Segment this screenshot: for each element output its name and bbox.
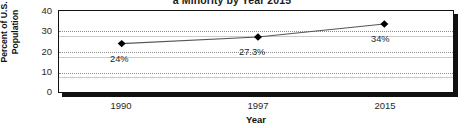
y-axis-tick-0: 0 [30,87,52,97]
y-axis-tick-labels: 40 30 20 10 0 [28,0,52,128]
data-point-marker-2015 [380,20,388,27]
series-line [122,24,385,44]
data-label-1990: 24% [110,54,129,64]
y-axis-tick-30: 30 [30,26,52,36]
y-axis-tick-10: 10 [30,67,52,77]
y-axis-title: Percent of U.S. Population [0,0,25,72]
y-axis-title-line-1: Percent of U.S. [0,0,10,72]
data-label-1997: 27.3% [239,47,265,57]
line-chart-figure: a Minority by Year 2015 Percent of U.S. … [0,0,464,128]
y-axis-title-line-2: Population [10,0,21,72]
data-point-marker-1997 [254,33,262,40]
chart-title: a Minority by Year 2015 [0,0,464,6]
y-axis-tick-40: 40 [30,6,52,16]
data-point-marker-1990 [118,40,126,47]
x-axis-title: Year [58,114,454,125]
x-axis-tick-1997: 1997 [247,100,268,111]
y-axis-tick-20: 20 [30,47,52,57]
x-axis-tick-2015: 2015 [374,100,395,111]
x-axis-tick-1990: 1990 [110,100,131,111]
data-label-2015: 34% [371,34,390,44]
